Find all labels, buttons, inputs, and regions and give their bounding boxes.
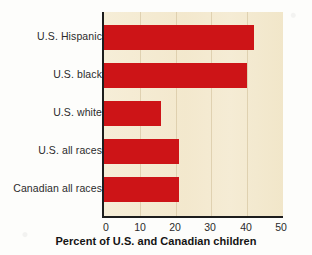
- x-tick-0: 0: [93, 221, 119, 233]
- x-tick-20: 20: [162, 221, 188, 233]
- bar-row: [104, 63, 283, 88]
- y-axis-line: [102, 12, 104, 217]
- plot-area: [104, 12, 283, 216]
- bar-us-all-races[interactable]: [104, 139, 179, 164]
- x-tick-50: 50: [268, 221, 294, 233]
- x-tick-10: 10: [127, 221, 153, 233]
- bar-row: [104, 101, 283, 126]
- category-label-us-white: U.S. white: [6, 106, 102, 118]
- bar-row: [104, 139, 283, 164]
- bar-chart-figure: U.S. Hispanic U.S. black U.S. white U.S.…: [0, 0, 312, 255]
- bar-us-black[interactable]: [104, 63, 247, 88]
- category-label-canadian-all-races: Canadian all races: [6, 182, 102, 194]
- bar-row: [104, 25, 283, 50]
- category-label-us-hispanic: U.S. Hispanic: [6, 30, 102, 42]
- bar-row: [104, 177, 283, 202]
- category-label-us-all-races: U.S. all races: [6, 144, 102, 156]
- x-tick-40: 40: [233, 221, 259, 233]
- x-axis-title: Percent of U.S. and Canadian children: [0, 235, 312, 247]
- bar-us-hispanic[interactable]: [104, 25, 254, 50]
- bar-canadian-all-races[interactable]: [104, 177, 179, 202]
- bar-us-white[interactable]: [104, 101, 161, 126]
- x-tick-30: 30: [197, 221, 223, 233]
- category-label-us-black: U.S. black: [6, 68, 102, 80]
- x-axis-line: [102, 216, 283, 218]
